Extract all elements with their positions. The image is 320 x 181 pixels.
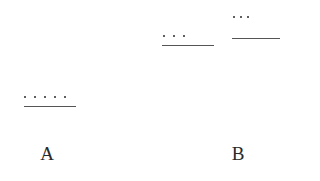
dot bbox=[247, 16, 249, 18]
dot bbox=[64, 96, 66, 98]
dot bbox=[44, 96, 46, 98]
dot bbox=[173, 35, 175, 37]
dot bbox=[54, 96, 56, 98]
dot bbox=[163, 35, 165, 37]
dot bbox=[24, 96, 26, 98]
baseline-line bbox=[162, 45, 214, 46]
dot bbox=[34, 96, 36, 98]
label-a: A bbox=[40, 144, 54, 163]
dot bbox=[233, 16, 235, 18]
baseline-line bbox=[232, 38, 280, 39]
dot bbox=[240, 16, 242, 18]
dot bbox=[183, 35, 185, 37]
baseline-line bbox=[24, 106, 76, 107]
label-b: B bbox=[232, 144, 245, 163]
